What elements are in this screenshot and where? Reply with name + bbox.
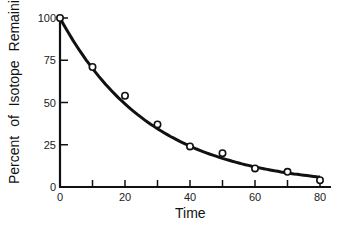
y-tick-label: 25	[44, 139, 56, 151]
axes	[59, 18, 331, 187]
x-tick-label: 40	[184, 191, 196, 203]
decay-curve	[60, 18, 320, 177]
decay-chart: 0204060800255075100	[0, 0, 345, 229]
data-point	[57, 15, 63, 21]
y-tick-label: 50	[44, 97, 56, 109]
y-tick-label: 75	[44, 54, 56, 66]
data-point	[187, 143, 193, 149]
data-point	[317, 177, 323, 183]
data-points	[57, 15, 323, 184]
data-point	[89, 64, 95, 70]
data-point	[219, 150, 225, 156]
data-point	[252, 165, 258, 171]
x-tick-label: 60	[249, 191, 261, 203]
y-tick-label: 0	[50, 181, 56, 193]
data-point	[122, 93, 128, 99]
x-tick-label: 80	[314, 191, 326, 203]
tick-labels: 0204060800255075100	[38, 12, 326, 203]
x-axis-label: Time	[175, 205, 206, 221]
x-tick-label: 0	[57, 191, 63, 203]
y-tick-label: 100	[38, 12, 56, 24]
data-point	[284, 169, 290, 175]
y-axis-label: Percent of Isotope Remaining	[6, 24, 22, 184]
tick-marks	[60, 18, 320, 187]
x-tick-label: 20	[119, 191, 131, 203]
data-point	[154, 121, 160, 127]
